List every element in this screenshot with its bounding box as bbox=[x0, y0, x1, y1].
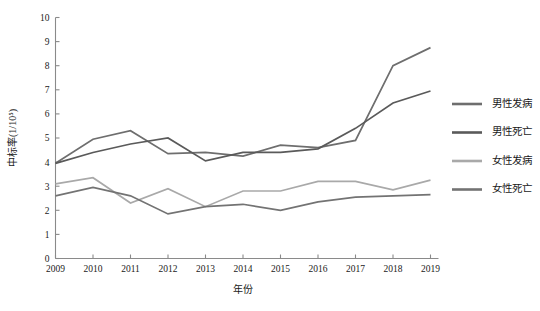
x-tick-label: 2012 bbox=[159, 264, 178, 274]
x-tick-label: 2010 bbox=[84, 264, 103, 274]
y-tick-label: 9 bbox=[45, 37, 50, 47]
y-tick-label: 6 bbox=[45, 109, 50, 119]
line-chart: 中标率(1/10⁵) 012345678910 2009201020112012… bbox=[0, 0, 540, 311]
x-tick-label: 2011 bbox=[121, 264, 140, 274]
x-tick-label: 2016 bbox=[309, 264, 328, 274]
x-tick-label: 2019 bbox=[421, 264, 440, 274]
y-tick-label: 7 bbox=[45, 85, 50, 95]
y-axis-title: 中标率(1/10⁵) bbox=[6, 109, 19, 167]
y-tick-label: 2 bbox=[45, 206, 50, 216]
y-tick-label: 4 bbox=[45, 158, 50, 168]
y-tick-label: 3 bbox=[45, 182, 50, 192]
x-tick-label: 2017 bbox=[346, 264, 365, 274]
chart-legend: 男性发病男性死亡女性发病女性死亡 bbox=[452, 97, 533, 195]
x-axis-title-text: 年份 bbox=[233, 283, 253, 295]
legend-label: 男性死亡 bbox=[492, 125, 532, 137]
y-tick-label: 10 bbox=[40, 13, 50, 23]
y-tick-label: 5 bbox=[45, 133, 50, 143]
x-tick-label: 2015 bbox=[271, 264, 290, 274]
y-tick-label: 8 bbox=[45, 61, 50, 71]
x-axis: 2009201020112012201320142015201620172018… bbox=[46, 255, 440, 274]
chart-container: 中标率(1/10⁵) 012345678910 2009201020112012… bbox=[0, 0, 540, 311]
x-tick-label: 2013 bbox=[196, 264, 215, 274]
y-tick-label: 0 bbox=[45, 254, 50, 264]
legend-label: 男性发病 bbox=[492, 97, 533, 109]
x-tick-label: 2018 bbox=[384, 264, 403, 274]
series-line bbox=[56, 48, 431, 164]
y-axis: 012345678910 bbox=[40, 13, 60, 264]
y-tick-label: 1 bbox=[45, 230, 50, 240]
y-axis-title-text: 中标率(1/10⁵) bbox=[6, 109, 19, 167]
x-axis-title: 年份 bbox=[233, 283, 253, 295]
legend-label: 女性死亡 bbox=[492, 182, 532, 194]
series-lines bbox=[56, 48, 431, 214]
x-tick-label: 2009 bbox=[46, 264, 65, 274]
x-tick-label: 2014 bbox=[234, 264, 253, 274]
legend-label: 女性发病 bbox=[492, 154, 533, 166]
